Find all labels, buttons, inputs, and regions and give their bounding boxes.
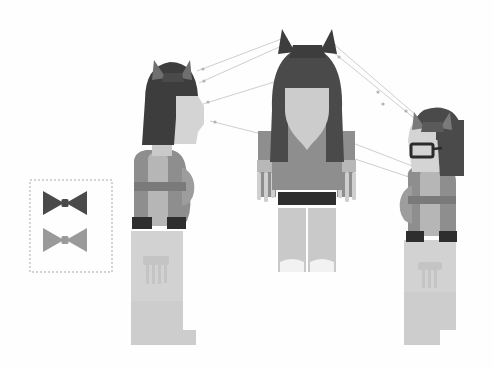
- bow-knot: [162, 73, 184, 82]
- right-figure-strap: [408, 196, 456, 204]
- glasses-temple: [433, 148, 442, 149]
- connector-dot: [202, 79, 205, 82]
- connector-dot: [213, 120, 216, 123]
- bow-knot: [421, 122, 444, 132]
- illustration-svg: [0, 0, 494, 368]
- center-figure-shoe-right: [310, 259, 334, 272]
- connector-dot: [376, 90, 379, 93]
- connector-dot: [404, 109, 407, 112]
- left-figure-strap: [134, 182, 186, 191]
- center-figure-shoe-left: [280, 259, 304, 272]
- right-figure-belt-left: [406, 231, 424, 242]
- connector-dot: [381, 102, 384, 105]
- illustration-canvas: Hair bow accessory reference illustratio…: [0, 0, 494, 368]
- bow-knot: [62, 199, 69, 207]
- connector-dot: [201, 67, 204, 70]
- center-figure-belt: [278, 192, 336, 205]
- bow-knot: [62, 236, 69, 244]
- connector-dot: [337, 55, 340, 58]
- center-figure-bangs: [283, 78, 331, 88]
- right-figure-belt-right: [439, 231, 457, 242]
- left-figure-skirt: [131, 231, 183, 301]
- bow-knot: [289, 45, 326, 58]
- left-figure-belt-right: [167, 217, 186, 229]
- figure-right: [400, 107, 464, 345]
- connector-dot: [206, 100, 209, 103]
- left-figure-belt-left: [132, 217, 152, 229]
